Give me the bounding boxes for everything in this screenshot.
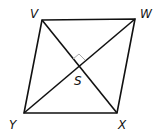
label-s: S — [74, 74, 82, 88]
label-y: Y — [9, 118, 18, 132]
diagonal-yw — [24, 19, 135, 113]
label-v: V — [30, 7, 39, 21]
label-w: W — [140, 7, 153, 21]
rhombus-diagram: V W X Y S — [0, 0, 160, 135]
right-angle-marker — [73, 54, 85, 60]
label-x: X — [117, 118, 127, 132]
